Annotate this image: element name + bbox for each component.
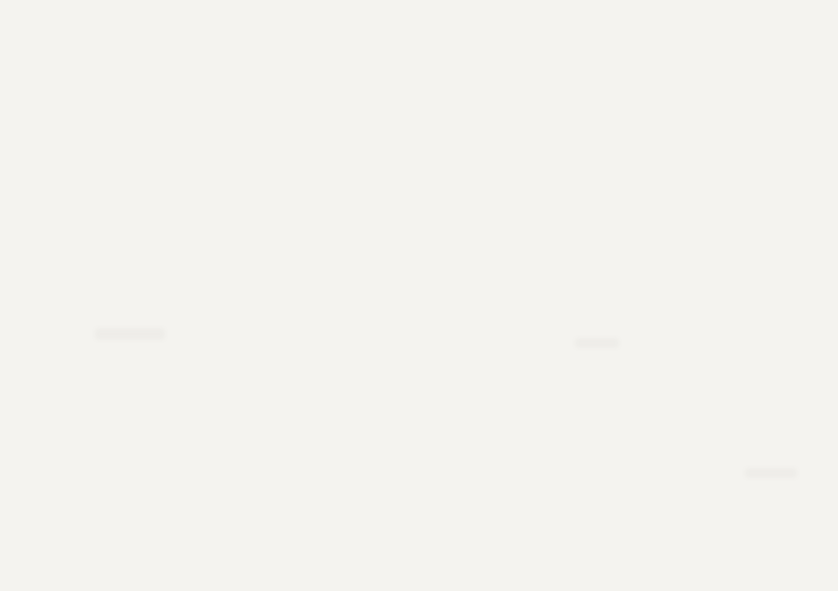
plus-icon [801,204,817,220]
legend-row [713,253,835,269]
legend-row [713,205,835,221]
diamond-tick-icon [801,300,817,316]
x-icon [801,252,817,268]
scan-ghost-mark [95,328,165,340]
legend-row [713,301,835,317]
scanned-figure-page [0,0,838,591]
legend-row [713,106,835,122]
circle-tick-icon [801,105,817,121]
triangle-icon [801,154,817,170]
scan-ghost-mark [745,468,797,478]
legend [713,52,835,332]
legend-row [713,155,835,171]
scan-ghost-mark [575,338,619,348]
